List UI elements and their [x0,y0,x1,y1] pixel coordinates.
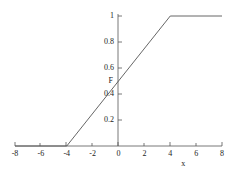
x-tick-label-8: 8 [214,150,230,158]
x-axis-ticks [15,142,222,146]
y-tick-label-06: 0.6 [92,64,114,72]
y-axis-ticks [118,16,122,120]
x-tick-label-2: 2 [136,150,152,158]
x-tick-label-6: 6 [188,150,204,158]
y-tick-label-1: 1 [92,12,114,20]
x-tick-label-minus6: -6 [33,150,49,158]
chart-canvas [0,0,233,169]
y-axis-title: F [108,77,112,85]
x-tick-label-0: 0 [111,150,127,158]
y-tick-label-02: 0.2 [92,116,114,124]
data-series-line [15,16,222,146]
x-tick-label-minus8: -8 [7,150,23,158]
x-tick-label-minus2: -2 [85,150,101,158]
chart-figure: F x -8-6-4-2024680.20.40.60.81 [0,0,233,169]
x-tick-label-minus4: -4 [59,150,75,158]
y-tick-label-04: 0.4 [92,90,114,98]
x-axis-title: x [181,160,185,168]
y-tick-label-08: 0.8 [92,38,114,46]
x-tick-label-4: 4 [162,150,178,158]
